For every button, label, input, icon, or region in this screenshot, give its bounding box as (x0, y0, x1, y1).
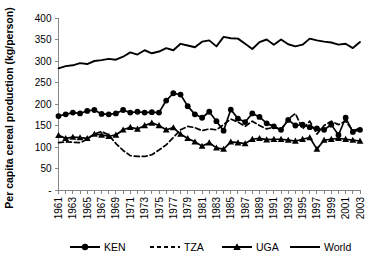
data-point-marker (127, 124, 134, 130)
data-point-marker (63, 111, 69, 117)
legend-item-world[interactable]: World (290, 241, 351, 253)
series-ken (56, 90, 363, 138)
legend-item-uga[interactable]: UGA (222, 241, 279, 253)
y-axis-title-group: Per capita cereal production (kg/person) (3, 7, 15, 208)
data-point-marker (84, 108, 90, 114)
legend-item-tza[interactable]: TZA (150, 241, 204, 253)
data-point-marker (307, 124, 313, 130)
data-point-marker (99, 111, 105, 117)
data-point-marker (185, 103, 191, 109)
x-tick-label: 1995 (297, 197, 308, 220)
x-tick-label: 1997 (311, 197, 322, 220)
x-axis-ticks: 1961196319651967196919711973197519771979… (53, 190, 366, 219)
data-point-marker (343, 115, 349, 121)
data-point-marker (206, 139, 213, 145)
legend-label: KEN (104, 241, 126, 253)
x-tick-label: 1993 (283, 197, 294, 220)
cereal-production-line-chart: Per capita cereal production (kg/person)… (0, 0, 380, 264)
y-tick-label: 200 (35, 99, 52, 110)
data-point-marker (214, 118, 220, 124)
series-uga (55, 120, 363, 152)
x-tick-label: 1969 (110, 197, 121, 220)
data-point-marker (228, 107, 234, 113)
data-point-marker (221, 128, 227, 134)
data-point-marker (257, 114, 263, 120)
x-tick-label: 1965 (82, 197, 93, 220)
data-point-marker (206, 109, 212, 115)
x-tick-label: 1987 (240, 197, 251, 220)
data-point-marker (292, 123, 298, 129)
data-point-marker (149, 109, 155, 115)
data-point-marker (70, 110, 76, 116)
x-tick-label: 1971 (125, 197, 136, 220)
data-point-marker (55, 132, 62, 138)
y-tick-label: - (48, 185, 51, 196)
y-axis-ticks: -50100150200250300350400 (35, 13, 59, 196)
y-tick-label: 350 (35, 34, 52, 45)
data-point-marker (127, 110, 133, 116)
legend-label: World (324, 241, 351, 253)
x-tick-label: 1977 (168, 197, 179, 220)
data-point-marker (142, 110, 148, 116)
x-tick-label: 1985 (225, 197, 236, 220)
x-tick-label: 2003 (355, 197, 366, 220)
x-tick-label: 1989 (254, 197, 265, 220)
y-tick-label: 250 (35, 77, 52, 88)
x-tick-label: 1963 (67, 197, 78, 220)
y-tick-label: 400 (35, 13, 52, 24)
y-tick-label: 150 (35, 120, 52, 131)
y-tick-label: 50 (40, 163, 52, 174)
x-tick-label: 1979 (182, 197, 193, 220)
x-tick-label: 1967 (96, 197, 107, 220)
data-point-marker (192, 111, 198, 117)
y-tick-label: 300 (35, 56, 52, 67)
data-point-marker (184, 135, 191, 141)
x-tick-label: 1991 (268, 197, 279, 220)
data-point-marker (148, 120, 155, 126)
chart-legend: KENTZAUGAWorld (70, 241, 351, 253)
data-point-marker (264, 120, 270, 126)
y-tick-label: 100 (35, 142, 52, 153)
x-tick-label: 1975 (154, 197, 165, 220)
data-point-marker (170, 124, 177, 130)
x-tick-label: 2001 (340, 197, 351, 220)
legend-label: UGA (256, 241, 279, 253)
y-axis-title: Per capita cereal production (kg/person) (3, 7, 15, 208)
data-point-marker (91, 107, 97, 113)
data-point-marker (163, 98, 169, 104)
data-point-marker (120, 107, 126, 113)
data-point-marker (77, 111, 83, 117)
data-point-marker (56, 113, 62, 119)
series-line-world (59, 37, 361, 68)
data-point-marker (113, 111, 119, 117)
legend-circle-marker (82, 244, 88, 250)
data-point-marker (135, 109, 141, 115)
data-point-marker (249, 111, 255, 117)
data-point-marker (199, 115, 205, 121)
chart-figure: Per capita cereal production (kg/person)… (0, 0, 380, 264)
data-point-marker (306, 134, 313, 140)
data-series-group (55, 37, 363, 157)
x-tick-label: 1981 (197, 197, 208, 220)
data-point-marker (178, 92, 184, 98)
x-tick-label: 1973 (139, 197, 150, 220)
series-world (59, 37, 361, 68)
x-tick-label: 1961 (53, 197, 64, 220)
x-tick-label: 1983 (211, 197, 222, 220)
data-point-marker (156, 110, 162, 116)
x-tick-label: 1999 (326, 197, 337, 220)
legend-item-ken[interactable]: KEN (70, 241, 126, 253)
data-point-marker (170, 90, 176, 96)
legend-label: TZA (184, 241, 204, 253)
data-point-marker (106, 111, 112, 117)
